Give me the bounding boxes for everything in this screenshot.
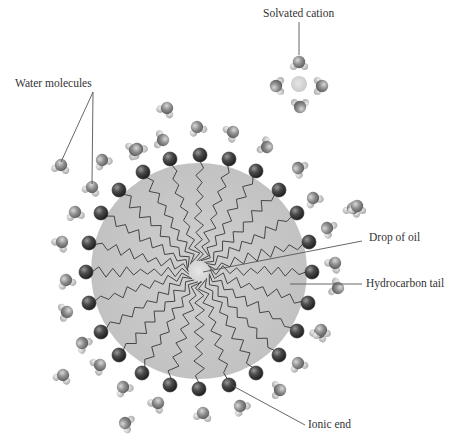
ionic-head xyxy=(272,348,286,362)
leader-water-molecules xyxy=(92,92,93,184)
oxygen-atom xyxy=(73,334,90,351)
label-hydrocarbon-tail: Hydrocarbon tail xyxy=(366,278,444,290)
ionic-head xyxy=(193,148,207,162)
water-molecule xyxy=(229,395,252,418)
oxygen-atom xyxy=(270,80,282,92)
leader-water-molecules xyxy=(61,92,93,162)
cation-ion xyxy=(291,76,307,92)
water-molecule xyxy=(270,77,284,95)
ionic-head xyxy=(272,183,286,197)
ionic-head xyxy=(222,152,236,166)
ionic-head xyxy=(192,382,206,396)
water-molecule xyxy=(302,188,325,209)
water-molecule xyxy=(155,98,178,119)
water-molecule xyxy=(124,139,144,161)
ionic-head xyxy=(163,378,177,392)
water-molecule xyxy=(91,150,114,171)
ionic-head xyxy=(94,325,108,339)
ionic-head xyxy=(290,324,304,338)
ionic-head xyxy=(301,296,315,310)
water-molecule xyxy=(290,56,308,70)
oxygen-atom xyxy=(316,80,328,92)
ionic-head xyxy=(305,265,319,279)
label-water-molecules: Water molecules xyxy=(15,78,92,90)
water-molecule xyxy=(112,377,135,398)
ionic-head xyxy=(112,348,126,362)
ionic-head xyxy=(82,236,96,250)
water-molecule xyxy=(221,121,242,144)
water-molecule xyxy=(314,77,328,95)
water-molecule xyxy=(272,381,286,399)
ionic-head xyxy=(79,265,93,279)
oxygen-atom xyxy=(351,200,363,212)
ionic-head xyxy=(249,164,263,178)
oxygen-atom xyxy=(231,397,248,414)
ionic-head xyxy=(112,183,126,197)
ionic-head xyxy=(249,366,263,380)
water-molecule xyxy=(88,354,109,377)
oxygen-atom xyxy=(274,384,286,396)
water-molecule xyxy=(153,130,170,150)
water-molecule xyxy=(57,302,74,322)
ionic-head xyxy=(302,235,316,249)
water-molecule xyxy=(50,231,73,254)
label-ionic-end: Ionic end xyxy=(308,419,351,431)
water-molecule xyxy=(146,392,169,415)
water-molecule xyxy=(255,135,276,158)
water-molecule xyxy=(51,157,71,174)
label-drop-of-oil: Drop of oil xyxy=(369,232,420,244)
water-molecule xyxy=(287,354,309,374)
oxygen-atom xyxy=(149,394,166,411)
water-molecule xyxy=(116,412,136,434)
ionic-head xyxy=(94,206,108,220)
ionic-head xyxy=(290,206,304,220)
water-molecule xyxy=(186,118,208,138)
water-molecule xyxy=(327,277,347,299)
ionic-head xyxy=(135,366,149,380)
ionic-head xyxy=(82,296,96,310)
oxygen-atom xyxy=(326,254,343,271)
oxygen-atom xyxy=(293,56,305,68)
water-molecule xyxy=(55,271,77,291)
oxygen-atom xyxy=(294,101,306,113)
micelle-diagram: Solvated cation Water molecules Drop of … xyxy=(0,0,458,441)
water-molecule xyxy=(288,157,309,180)
ionic-head xyxy=(136,165,150,179)
oxygen-atom xyxy=(53,233,70,250)
label-solvated-cation: Solvated cation xyxy=(263,8,334,20)
ionic-head xyxy=(163,152,177,166)
ionic-head xyxy=(222,378,236,392)
water-molecule xyxy=(71,332,94,355)
diagram-canvas xyxy=(0,0,458,441)
water-molecule xyxy=(323,252,346,275)
water-molecule xyxy=(317,217,338,240)
water-molecule xyxy=(52,366,74,386)
water-molecule xyxy=(65,204,85,221)
water-molecule xyxy=(291,99,309,113)
water-molecule xyxy=(193,405,213,422)
solvated-cation xyxy=(270,56,328,113)
